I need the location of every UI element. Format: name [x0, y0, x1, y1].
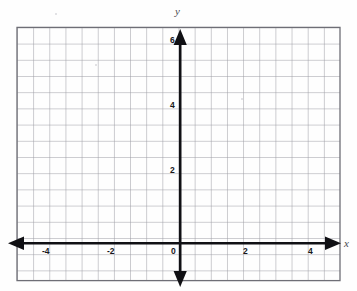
- x-axis-label: x: [344, 238, 349, 249]
- x-tick-label-2: 2: [243, 247, 248, 256]
- coordinate-plane-svg: [0, 0, 357, 291]
- y-axis-label: y: [175, 6, 180, 17]
- x-tick-label-neg4: -4: [42, 247, 49, 256]
- x-tick-label-origin: 0: [171, 247, 176, 256]
- y-tick-label-4: 4: [170, 101, 175, 110]
- graph-canvas: y x 6 4 2 -4 -2 0 2 4: [0, 0, 357, 291]
- y-tick-label-2: 2: [170, 166, 175, 175]
- paper-speck: [241, 98, 243, 100]
- paper-speck: [55, 13, 57, 15]
- x-axis-arrow-left: [8, 237, 24, 250]
- x-tick-label-neg2: -2: [107, 247, 114, 256]
- paper-speck: [95, 64, 97, 66]
- x-tick-label-4: 4: [308, 247, 313, 256]
- y-tick-label-6: 6: [170, 36, 175, 45]
